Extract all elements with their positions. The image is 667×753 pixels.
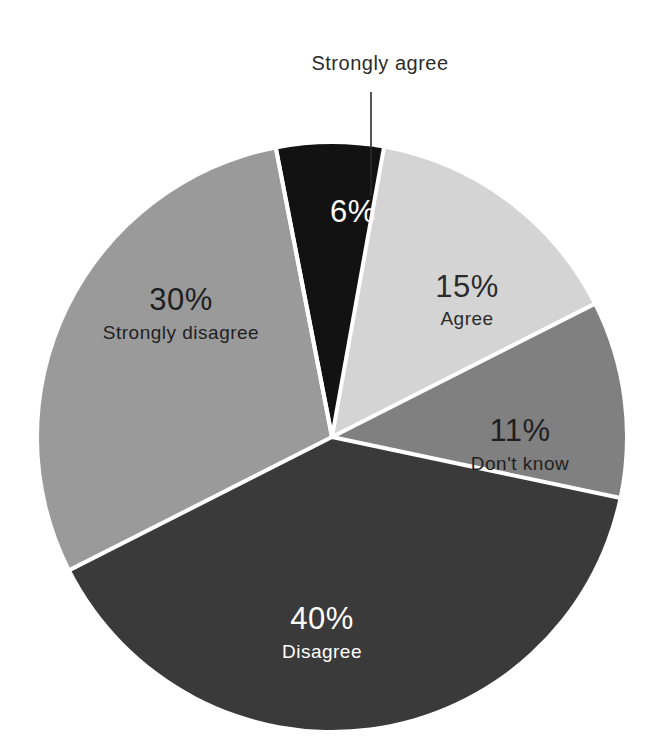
slice-percent-strongly-agree: 6% [330,194,376,229]
pie-chart-canvas: 6%15%Agree11%Don't know40%Disagree30%Str… [0,0,667,753]
slice-name-don-t-know: Don't know [471,453,569,474]
slice-name-agree: Agree [440,308,493,329]
slice-percent-don-t-know: 11% [489,413,550,448]
slice-percent-strongly-disagree: 30% [149,282,213,317]
pie-chart-figure: 6%15%Agree11%Don't know40%Disagree30%Str… [0,0,667,753]
strongly-agree-external-label: Strongly agree [311,52,448,74]
slice-percent-disagree: 40% [290,601,354,636]
slice-name-disagree: Disagree [282,641,362,662]
slice-name-strongly-disagree: Strongly disagree [103,322,259,343]
slice-percent-agree: 15% [435,269,499,304]
